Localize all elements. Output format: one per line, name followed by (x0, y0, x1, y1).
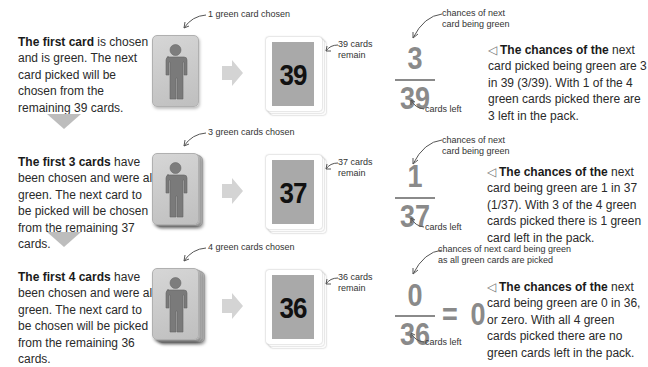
description-text: have been chosen and were all green. The… (18, 270, 155, 366)
description-bold: The first card (18, 35, 94, 49)
curved-pointer-arrow-icon (408, 216, 426, 230)
chances-label: chances of nextcard being green (442, 8, 510, 30)
remain-label: 37 cardsremain (338, 157, 373, 179)
remain-label-line: remain (338, 50, 373, 61)
explanation-text: ◁The chances of the next card being gree… (487, 164, 647, 246)
arrow-right-icon (222, 178, 244, 204)
triangle-left-icon: ◁ (487, 280, 496, 294)
arrow-down-icon (47, 232, 81, 247)
remain-label-line: remain (338, 168, 373, 179)
curved-pointer-arrow-icon (324, 276, 340, 288)
chances-label: chances of nextcard being green (442, 135, 510, 157)
triangle-left-icon: ◁ (488, 43, 497, 57)
chosen-label: 1 green card chosen (208, 9, 290, 20)
remaining-deck: 37 (266, 155, 322, 229)
step-description: The first 3 cards have been chosen and w… (18, 154, 158, 252)
explanation-bold: The chances of the (499, 280, 608, 294)
chosen-card (152, 268, 199, 340)
explanation-bold: The chances of the (500, 43, 609, 57)
explanation-text: ◁The chances of the next card being gree… (487, 279, 647, 361)
chosen-label: 4 green cards chosen (208, 242, 295, 253)
deck-face: 37 (272, 160, 314, 224)
chances-label: chances of next card being greenas all g… (438, 244, 571, 266)
curved-pointer-arrow-icon (180, 245, 208, 265)
chances-label-line: chances of next (442, 8, 510, 19)
fraction-numerator: 0 (395, 279, 435, 315)
chances-label-line: card being green (442, 19, 510, 30)
chances-label-line: chances of next (442, 135, 510, 146)
explanation-bold: The chances of the (499, 165, 608, 179)
curved-pointer-arrow-icon (180, 12, 208, 32)
curved-pointer-arrow-icon (324, 43, 340, 55)
remain-label: 39 cardsremain (338, 39, 373, 61)
chances-label-line: card being green (442, 146, 510, 157)
arrow-down-icon (47, 114, 81, 129)
explanation-text: ◁The chances of the next card picked bei… (488, 42, 648, 124)
fraction-numerator: 3 (395, 42, 435, 78)
chosen-label: 3 green cards chosen (208, 127, 295, 138)
remain-label: 36 cardsremain (338, 272, 373, 294)
remaining-deck: 36 (266, 270, 322, 344)
curved-pointer-arrow-icon (408, 331, 426, 345)
deck-count: 39 (272, 58, 314, 94)
chosen-card (152, 153, 199, 225)
description-bold: The first 3 cards (18, 155, 111, 169)
deck-face: 36 (272, 275, 314, 339)
remain-label-line: 39 cards (338, 39, 373, 50)
chances-label-line: chances of next card being green (438, 244, 571, 255)
curved-pointer-arrow-icon (408, 248, 444, 278)
curved-pointer-arrow-icon (408, 98, 426, 112)
description-text: have been chosen and were all green. The… (18, 155, 155, 251)
deck-face: 39 (272, 42, 314, 106)
arrow-right-icon (222, 293, 244, 319)
curved-pointer-arrow-icon (408, 138, 444, 168)
curved-pointer-arrow-icon (324, 161, 340, 173)
remaining-deck: 39 (266, 37, 322, 111)
person-icon (162, 44, 189, 100)
description-bold: The first 4 cards (18, 270, 111, 284)
deck-count: 37 (272, 176, 314, 212)
person-icon (162, 162, 189, 218)
cards-left-label: cards left (425, 104, 462, 115)
cards-left-label: cards left (425, 222, 462, 233)
curved-pointer-arrow-icon (180, 130, 208, 150)
remain-label-line: 36 cards (338, 272, 373, 283)
step-description: The first card is chosen and is green. T… (18, 34, 158, 116)
cards-left-label: cards left (425, 337, 462, 348)
remain-label-line: remain (338, 283, 373, 294)
chances-label-line: as all green cards are picked (438, 255, 571, 266)
arrow-right-icon (222, 60, 244, 86)
person-icon (162, 277, 189, 333)
step-description: The first 4 cards have been chosen and w… (18, 269, 158, 367)
chosen-card (152, 35, 199, 107)
remain-label-line: 37 cards (338, 157, 373, 168)
deck-count: 36 (272, 291, 314, 327)
curved-pointer-arrow-icon (408, 12, 444, 42)
triangle-left-icon: ◁ (487, 165, 496, 179)
